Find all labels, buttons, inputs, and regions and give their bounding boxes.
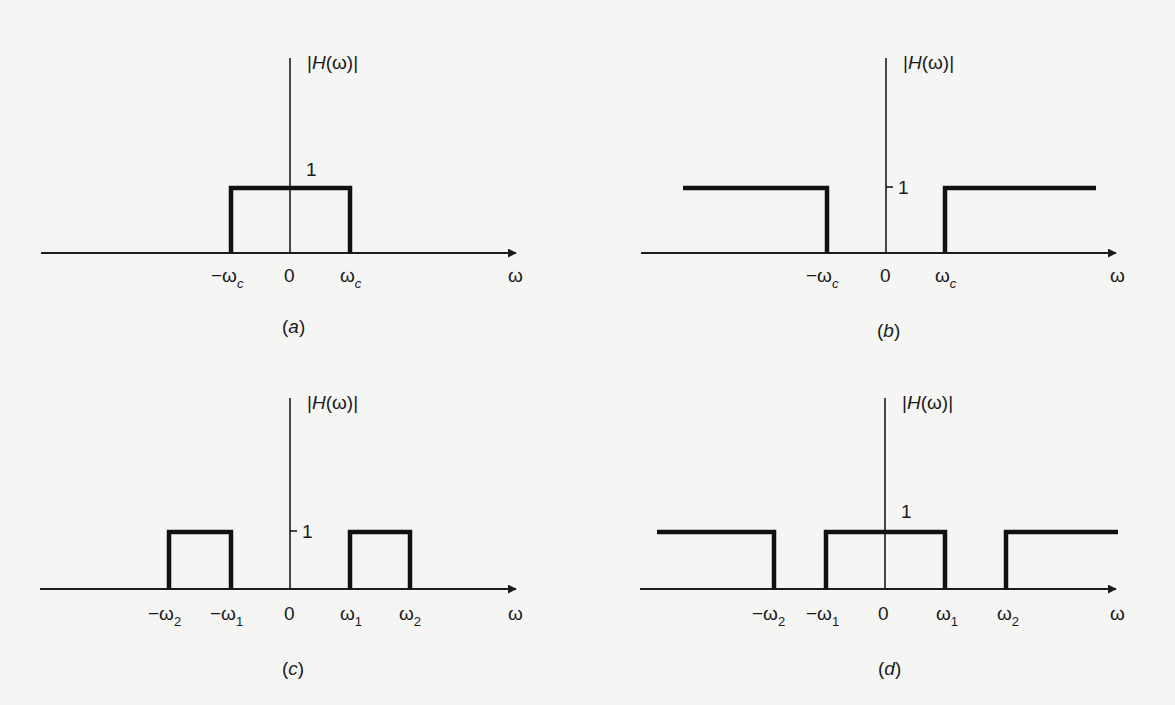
y-axis-label: |H(ω)|: [903, 52, 954, 73]
level-label: 1: [901, 501, 912, 522]
panel-caption: (d): [878, 658, 901, 679]
tick-zero: 0: [284, 603, 295, 624]
x-axis-label: ω: [1110, 603, 1125, 624]
panel-a-lowpass: |H(ω)| 1 −ωc 0 ωc ω (a): [41, 52, 523, 337]
y-axis-label: |H(ω)|: [307, 52, 358, 73]
y-axis-label: |H(ω)|: [307, 392, 358, 413]
tick-neg-wc: −ωc: [211, 265, 244, 291]
tick-neg-w2: −ω2: [752, 603, 785, 629]
response-curve-right: [350, 532, 410, 589]
level-label: 1: [302, 521, 313, 542]
tick-neg-w1: −ω1: [210, 603, 243, 629]
tick-neg-w1: −ω1: [806, 603, 839, 629]
tick-wc: ωc: [340, 265, 362, 291]
y-axis-label: |H(ω)|: [902, 392, 953, 413]
response-curve-left: [683, 188, 827, 253]
tick-wc: ωc: [935, 265, 957, 291]
x-axis-label: ω: [508, 265, 523, 286]
filter-responses-figure: |H(ω)| 1 −ωc 0 ωc ω (a) |H(ω)| 1 −ωc 0 ω…: [0, 0, 1175, 705]
response-curve-right: [945, 188, 1096, 253]
panel-d-bandstop: |H(ω)| 1 −ω2 −ω1 0 ω1 ω2 ω (d): [640, 392, 1125, 679]
tick-zero: 0: [878, 603, 889, 624]
tick-neg-wc: −ωc: [806, 265, 839, 291]
response-curve-right: [1006, 532, 1118, 589]
level-label: 1: [306, 159, 317, 180]
tick-zero: 0: [880, 265, 891, 286]
panel-caption: (a): [282, 316, 305, 337]
panel-b-highpass: |H(ω)| 1 −ωc 0 ωc ω (b): [641, 52, 1125, 341]
level-label: 1: [898, 177, 909, 198]
tick-w2: ω2: [399, 603, 421, 629]
x-axis-label: ω: [1110, 265, 1125, 286]
panel-caption: (c): [282, 658, 304, 679]
tick-zero: 0: [284, 265, 295, 286]
tick-w1: ω1: [340, 603, 362, 629]
tick-neg-w2: −ω2: [148, 603, 181, 629]
panel-caption: (b): [877, 320, 900, 341]
response-curve-left: [169, 532, 231, 589]
x-axis-label: ω: [508, 603, 523, 624]
tick-w2: ω2: [997, 603, 1019, 629]
tick-w1: ω1: [936, 603, 958, 629]
response-curve-left: [657, 532, 774, 589]
panel-c-bandpass: |H(ω)| 1 −ω2 −ω1 0 ω1 ω2 ω (c): [40, 392, 523, 679]
